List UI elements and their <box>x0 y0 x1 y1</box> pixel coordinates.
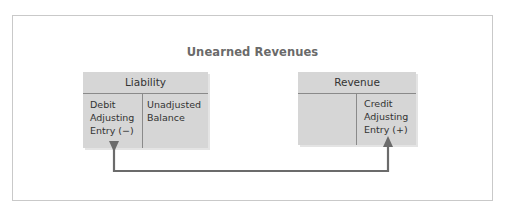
connector-arrow <box>0 0 505 207</box>
connector-line <box>114 146 388 171</box>
arrow-down-icon <box>109 141 119 152</box>
arrow-up-icon <box>383 136 393 147</box>
